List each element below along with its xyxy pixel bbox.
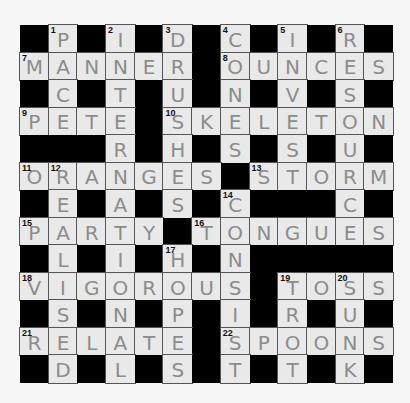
crossword-cell[interactable]: V <box>278 80 307 108</box>
crossword-cell[interactable]: E <box>49 328 78 356</box>
crossword-cell[interactable]: R <box>336 163 365 191</box>
crossword-cell[interactable]: S <box>49 300 78 328</box>
crossword-cell[interactable]: 3D <box>163 25 192 53</box>
crossword-cell[interactable]: C <box>49 80 78 108</box>
crossword-cell[interactable]: A <box>49 218 78 246</box>
crossword-cell[interactable]: I <box>106 245 135 273</box>
crossword-cell[interactable]: E <box>278 108 307 136</box>
crossword-cell[interactable]: U <box>250 53 279 81</box>
crossword-cell[interactable]: T <box>221 355 250 383</box>
crossword-cell[interactable]: K <box>192 108 221 136</box>
crossword-cell[interactable]: M <box>364 163 393 191</box>
crossword-cell[interactable]: O <box>221 218 250 246</box>
crossword-cell[interactable]: N <box>221 80 250 108</box>
crossword-cell[interactable]: R <box>163 53 192 81</box>
crossword-cell[interactable]: G <box>77 273 106 301</box>
crossword-cell[interactable]: C <box>336 190 365 218</box>
crossword-cell[interactable]: A <box>106 190 135 218</box>
crossword-cell[interactable]: O <box>336 108 365 136</box>
crossword-cell[interactable]: N <box>364 108 393 136</box>
crossword-cell[interactable]: E <box>49 190 78 218</box>
crossword-cell[interactable]: E <box>336 218 365 246</box>
crossword-cell[interactable]: K <box>336 355 365 383</box>
crossword-cell[interactable]: 17H <box>163 245 192 273</box>
crossword-cell[interactable]: H <box>163 135 192 163</box>
crossword-cell[interactable]: I <box>49 273 78 301</box>
crossword-cell[interactable]: L <box>77 328 106 356</box>
crossword-cell[interactable]: 6R <box>336 25 365 53</box>
crossword-cell[interactable]: 22S <box>221 328 250 356</box>
crossword-cell[interactable]: N <box>336 328 365 356</box>
crossword-cell[interactable]: P <box>250 328 279 356</box>
crossword-cell[interactable]: E <box>49 108 78 136</box>
crossword-cell[interactable]: N <box>106 53 135 81</box>
crossword-cell[interactable]: R <box>77 218 106 246</box>
crossword-cell[interactable]: 8O <box>221 53 250 81</box>
crossword-cell[interactable]: S <box>221 273 250 301</box>
crossword-cell[interactable]: 12R <box>49 163 78 191</box>
crossword-cell[interactable]: A <box>49 53 78 81</box>
crossword-cell[interactable]: N <box>250 218 279 246</box>
crossword-cell[interactable]: 10S <box>163 108 192 136</box>
crossword-cell[interactable]: G <box>278 218 307 246</box>
crossword-cell[interactable]: T <box>278 163 307 191</box>
crossword-cell[interactable]: R <box>278 300 307 328</box>
crossword-cell[interactable]: O <box>106 273 135 301</box>
crossword-cell[interactable]: O <box>307 273 336 301</box>
crossword-cell[interactable]: S <box>278 135 307 163</box>
crossword-cell[interactable]: T <box>135 328 164 356</box>
crossword-cell[interactable]: 5I <box>278 25 307 53</box>
crossword-cell[interactable]: A <box>77 163 106 191</box>
crossword-cell[interactable]: S <box>336 80 365 108</box>
crossword-cell[interactable]: S <box>364 53 393 81</box>
crossword-cell[interactable]: N <box>221 245 250 273</box>
crossword-cell[interactable]: Y <box>135 218 164 246</box>
crossword-cell[interactable]: U <box>163 80 192 108</box>
crossword-cell[interactable]: 9P <box>20 108 49 136</box>
crossword-cell[interactable]: O <box>307 328 336 356</box>
crossword-cell[interactable]: 19T <box>278 273 307 301</box>
crossword-cell[interactable]: 4C <box>221 25 250 53</box>
crossword-cell[interactable]: A <box>106 328 135 356</box>
crossword-cell[interactable]: S <box>364 328 393 356</box>
crossword-cell[interactable]: G <box>135 163 164 191</box>
crossword-cell[interactable]: T <box>77 108 106 136</box>
crossword-cell[interactable]: L <box>250 108 279 136</box>
crossword-cell[interactable]: 15P <box>20 218 49 246</box>
crossword-cell[interactable]: O <box>307 163 336 191</box>
crossword-cell[interactable]: P <box>163 300 192 328</box>
crossword-cell[interactable]: L <box>106 355 135 383</box>
crossword-cell[interactable]: 14C <box>221 190 250 218</box>
crossword-cell[interactable]: T <box>278 355 307 383</box>
crossword-cell[interactable]: 13S <box>250 163 279 191</box>
crossword-cell[interactable]: S <box>364 218 393 246</box>
crossword-cell[interactable]: N <box>106 163 135 191</box>
crossword-cell[interactable]: S <box>364 273 393 301</box>
crossword-cell[interactable]: 7M <box>20 53 49 81</box>
crossword-cell[interactable]: 2I <box>106 25 135 53</box>
crossword-cell[interactable]: N <box>77 53 106 81</box>
crossword-cell[interactable]: O <box>278 328 307 356</box>
crossword-cell[interactable]: N <box>278 53 307 81</box>
crossword-cell[interactable]: 18V <box>20 273 49 301</box>
crossword-cell[interactable]: E <box>336 53 365 81</box>
crossword-cell[interactable]: T <box>307 108 336 136</box>
crossword-cell[interactable]: D <box>49 355 78 383</box>
crossword-cell[interactable]: O <box>163 273 192 301</box>
crossword-cell[interactable]: T <box>106 218 135 246</box>
crossword-cell[interactable]: L <box>49 245 78 273</box>
crossword-cell[interactable]: S <box>163 190 192 218</box>
crossword-cell[interactable]: 11O <box>20 163 49 191</box>
crossword-cell[interactable]: U <box>336 135 365 163</box>
crossword-cell[interactable]: 16T <box>192 218 221 246</box>
crossword-cell[interactable]: C <box>307 53 336 81</box>
crossword-cell[interactable]: E <box>106 108 135 136</box>
crossword-cell[interactable]: R <box>106 135 135 163</box>
crossword-cell[interactable]: N <box>106 300 135 328</box>
crossword-cell[interactable]: S <box>163 355 192 383</box>
crossword-cell[interactable]: E <box>163 328 192 356</box>
crossword-cell[interactable]: 20S <box>336 273 365 301</box>
crossword-cell[interactable]: R <box>135 273 164 301</box>
crossword-cell[interactable]: U <box>307 218 336 246</box>
crossword-cell[interactable]: 21R <box>20 328 49 356</box>
